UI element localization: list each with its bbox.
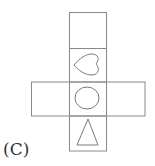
face-bottom [70, 116, 107, 151]
triangle-icon [77, 119, 98, 145]
face-top [70, 13, 107, 49]
face-left-wing [32, 82, 70, 116]
face-right-wing [107, 82, 146, 116]
option-label: (C) [3, 139, 29, 159]
heart-icon [74, 54, 98, 75]
circle-icon [75, 87, 99, 109]
face-upper-middle [70, 49, 107, 83]
